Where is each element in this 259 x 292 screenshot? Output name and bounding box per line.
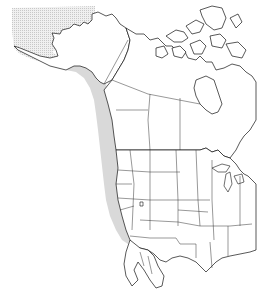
range-map: [0, 0, 259, 292]
great-salt-lake: [140, 202, 143, 206]
